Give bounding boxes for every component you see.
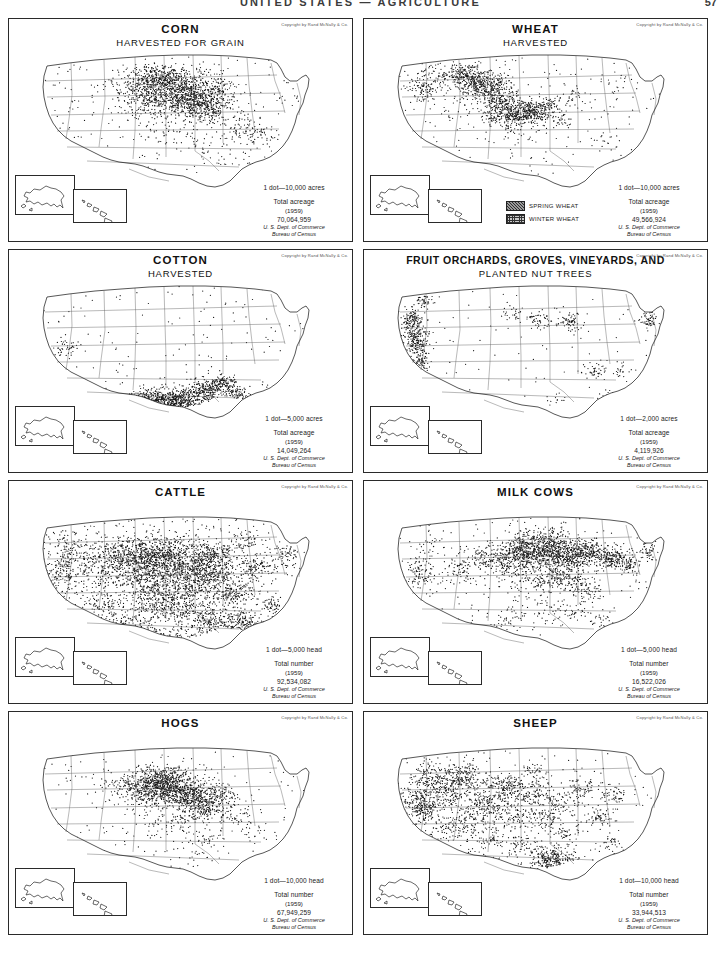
legend-total-value: 16,522,026 — [597, 678, 701, 685]
copyright-notice: Copyright by Rand McNally & Co. — [281, 254, 348, 259]
alaska-inset — [15, 637, 75, 677]
map-panel-fruit[interactable]: FRUIT ORCHARDS, GROVES, VINEYARDS, ANDPL… — [363, 249, 708, 473]
source-attribution: U. S. Dept. of CommerceBureau of Census — [597, 455, 701, 468]
source-attribution: U. S. Dept. of CommerceBureau of Census — [597, 686, 701, 699]
hawaii-inset — [73, 189, 127, 223]
legend-total-label: Total number — [242, 891, 346, 898]
copyright-notice: Copyright by Rand McNally & Co. — [636, 716, 703, 721]
legend-total-value: 70,064,959 — [242, 216, 346, 223]
copyright-notice: Copyright by Rand McNally & Co. — [636, 254, 703, 259]
hawaii-inset — [73, 882, 127, 916]
panel-title-main: MILK COWS — [497, 486, 574, 498]
legend-year: (1959) — [597, 438, 701, 445]
map-panel-sheep[interactable]: SHEEPCopyright by Rand McNally & Co.1 do… — [363, 711, 708, 935]
legend-year: (1959) — [242, 207, 346, 214]
map-panel-milk-cows[interactable]: MILK COWSCopyright by Rand McNally & Co.… — [363, 480, 708, 704]
hawaii-inset — [428, 420, 482, 454]
legend-cotton: 1 dot—5,000 acresTotal acreage(1959)14,0… — [242, 415, 346, 454]
map-panel-grid: CORNHARVESTED FOR GRAINCopyright by Rand… — [8, 18, 714, 948]
source-line-2: Bureau of Census — [242, 231, 346, 237]
winter-wheat-swatch — [506, 214, 525, 224]
legend-total-value: 33,944,513 — [597, 909, 701, 916]
source-attribution: U. S. Dept. of CommerceBureau of Census — [242, 224, 346, 237]
legend-total-value: 4,119,926 — [597, 447, 701, 454]
map-panel-hogs[interactable]: HOGSCopyright by Rand McNally & Co.1 dot… — [8, 711, 353, 935]
alaska-inset — [370, 637, 430, 677]
legend-total-label: Total number — [597, 891, 701, 898]
alaska-inset — [370, 175, 430, 215]
legend-milk-cows: 1 dot—5,000 headTotal number(1959)16,522… — [597, 646, 701, 685]
panel-title-main: CORN — [161, 23, 199, 35]
legend-year: (1959) — [242, 438, 346, 445]
legend-total-value: 92,534,082 — [242, 678, 346, 685]
panel-title-main: CATTLE — [155, 486, 206, 498]
legend-year: (1959) — [242, 900, 346, 907]
map-panel-corn[interactable]: CORNHARVESTED FOR GRAINCopyright by Rand… — [8, 18, 353, 242]
source-line-2: Bureau of Census — [242, 462, 346, 468]
panel-title-main: FRUIT ORCHARDS, GROVES, VINEYARDS, AND — [406, 254, 665, 266]
copyright-notice: Copyright by Rand McNally & Co. — [636, 23, 703, 28]
panel-title-main: SHEEP — [513, 717, 558, 729]
legend-total-value: 49,566,924 — [597, 216, 701, 223]
source-line-2: Bureau of Census — [597, 231, 701, 237]
alaska-inset — [370, 406, 430, 446]
panel-subtitle: PLANTED NUT TREES — [364, 268, 707, 281]
legend-corn: 1 dot—10,000 acresTotal acreage(1959)70,… — [242, 184, 346, 223]
spring-wheat-swatch — [506, 201, 525, 211]
legend-sheep: 1 dot—10,000 headTotal number(1959)33,94… — [597, 877, 701, 916]
source-attribution: U. S. Dept. of CommerceBureau of Census — [597, 917, 701, 930]
legend-dot-unit: 1 dot—10,000 head — [597, 877, 701, 884]
legend-total-value: 14,049,264 — [242, 447, 346, 454]
legend-hogs: 1 dot—10,000 headTotal number(1959)67,94… — [242, 877, 346, 916]
legend-total-label: Total acreage — [597, 198, 701, 205]
legend-year: (1959) — [597, 669, 701, 676]
hawaii-inset — [428, 189, 482, 223]
map-panel-cattle[interactable]: CATTLECopyright by Rand McNally & Co.1 d… — [8, 480, 353, 704]
map-panel-wheat[interactable]: WHEATHARVESTEDCopyright by Rand McNally … — [363, 18, 708, 242]
hawaii-inset — [428, 882, 482, 916]
panel-title-main: HOGS — [161, 717, 199, 729]
panel-title-main: WHEAT — [512, 23, 559, 35]
legend-dot-unit: 1 dot—10,000 acres — [597, 184, 701, 191]
hawaii-inset — [73, 651, 127, 685]
panel-subtitle: HARVESTED FOR GRAIN — [9, 37, 352, 50]
copyright-notice: Copyright by Rand McNally & Co. — [281, 485, 348, 490]
spring-wheat-label: SPRING WHEAT — [529, 203, 579, 209]
source-line-2: Bureau of Census — [597, 462, 701, 468]
legend-year: (1959) — [242, 669, 346, 676]
panel-subtitle: HARVESTED — [364, 37, 707, 50]
legend-dot-unit: 1 dot—10,000 acres — [242, 184, 346, 191]
copyright-notice: Copyright by Rand McNally & Co. — [281, 23, 348, 28]
legend-cattle: 1 dot—5,000 headTotal number(1959)92,534… — [242, 646, 346, 685]
legend-dot-unit: 1 dot—2,000 acres — [597, 415, 701, 422]
page-header-title: UNITED STATES — AGRICULTURE — [0, 0, 721, 8]
source-line-2: Bureau of Census — [597, 924, 701, 930]
source-line-2: Bureau of Census — [597, 693, 701, 699]
page-header: UNITED STATES — AGRICULTURE 57 — [0, 0, 721, 11]
legend-wheat: 1 dot—10,000 acresTotal acreage(1959)49,… — [597, 184, 701, 223]
legend-dot-unit: 1 dot—10,000 head — [242, 877, 346, 884]
legend-dot-unit: 1 dot—5,000 head — [597, 646, 701, 653]
legend-dot-unit: 1 dot—5,000 head — [242, 646, 346, 653]
legend-fruit: 1 dot—2,000 acresTotal acreage(1959)4,11… — [597, 415, 701, 454]
source-attribution: U. S. Dept. of CommerceBureau of Census — [242, 455, 346, 468]
legend-total-value: 67,949,259 — [242, 909, 346, 916]
panel-title-main: COTTON — [153, 254, 208, 266]
legend-dot-unit: 1 dot—5,000 acres — [242, 415, 346, 422]
panel-subtitle: HARVESTED — [9, 268, 352, 281]
source-attribution: U. S. Dept. of CommerceBureau of Census — [597, 224, 701, 237]
legend-total-label: Total number — [597, 660, 701, 667]
copyright-notice: Copyright by Rand McNally & Co. — [281, 716, 348, 721]
map-panel-cotton[interactable]: COTTONHARVESTEDCopyright by Rand McNally… — [8, 249, 353, 473]
alaska-inset — [370, 868, 430, 908]
legend-total-label: Total acreage — [597, 429, 701, 436]
legend-total-label: Total acreage — [242, 429, 346, 436]
hawaii-inset — [428, 651, 482, 685]
winter-wheat-label: WINTER WHEAT — [529, 216, 579, 222]
page-number: 57 — [705, 0, 717, 8]
copyright-notice: Copyright by Rand McNally & Co. — [636, 485, 703, 490]
hawaii-inset — [73, 420, 127, 454]
legend-year: (1959) — [597, 207, 701, 214]
source-attribution: U. S. Dept. of CommerceBureau of Census — [242, 686, 346, 699]
source-attribution: U. S. Dept. of CommerceBureau of Census — [242, 917, 346, 930]
